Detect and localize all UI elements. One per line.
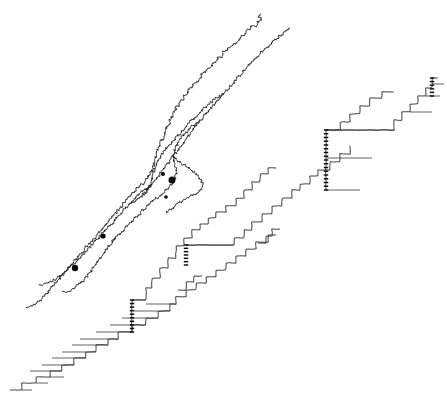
blob-center <box>169 177 176 184</box>
blob-left <box>100 233 105 238</box>
blob-lower-left <box>72 265 78 271</box>
figure-canvas <box>0 0 447 398</box>
blob-small-a <box>161 172 165 176</box>
figure-background <box>0 0 447 398</box>
blob-small-b <box>164 195 168 199</box>
aggregate-diagram <box>0 0 447 398</box>
